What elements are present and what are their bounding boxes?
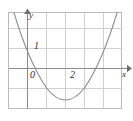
y-tick-label-1: 1 — [34, 41, 39, 51]
parabola-figure: 0 1 2 y x — [0, 0, 133, 121]
x-tick-label-2: 2 — [70, 70, 75, 80]
origin-tick-label: 0 — [30, 70, 35, 80]
plot-canvas — [0, 0, 133, 121]
y-axis-label: y — [29, 11, 33, 20]
x-axis-arrowhead — [127, 65, 132, 72]
x-axis-label: x — [122, 70, 126, 79]
